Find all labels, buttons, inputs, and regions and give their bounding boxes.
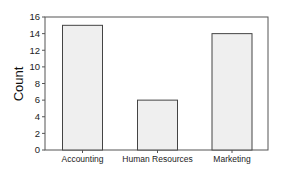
bar-marketing <box>212 34 252 150</box>
x-category-label: Marketing <box>213 154 251 164</box>
x-category-label: Human Resources <box>122 154 192 164</box>
y-tick-label: 8 <box>35 78 40 89</box>
y-tick-label: 6 <box>35 94 40 105</box>
bar-chart: 0246810121416 AccountingHuman ResourcesM… <box>0 0 286 179</box>
y-tick-label: 14 <box>29 28 40 39</box>
bar-human-resources <box>138 100 178 150</box>
y-tick-label: 10 <box>29 61 40 72</box>
y-tick-label: 4 <box>35 111 40 122</box>
y-tick-label: 0 <box>35 144 40 155</box>
y-tick-label: 2 <box>35 128 40 139</box>
y-axis-title: Count <box>11 66 26 101</box>
bar-accounting <box>63 25 103 150</box>
y-tick-label: 12 <box>29 45 40 56</box>
x-category-label: Accounting <box>61 154 103 164</box>
y-tick-label: 16 <box>29 11 40 22</box>
